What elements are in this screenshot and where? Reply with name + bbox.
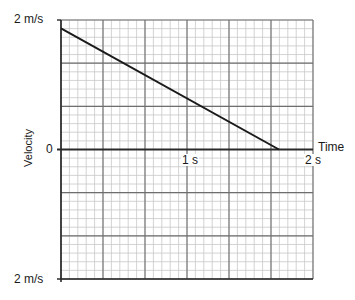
x-tick-1s-label: 1 s (181, 154, 199, 166)
y-tick-zero-label: 0 (46, 143, 53, 155)
velocity-time-graph (0, 0, 355, 300)
y-axis-title: Velocity (22, 128, 34, 168)
x-tick-2s-label: 2 s (304, 154, 322, 166)
y-tick-bottom-label: 2 m/s (14, 273, 43, 285)
y-tick-top-label: 2 m/s (14, 13, 43, 25)
axes (57, 20, 313, 282)
x-axis-title: Time (318, 141, 344, 153)
